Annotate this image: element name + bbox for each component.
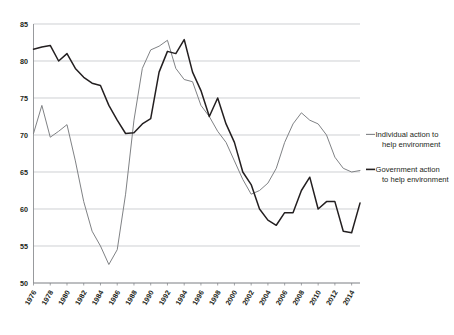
chart-canvas: 8580757065605550 19761978198019821984198…	[0, 0, 454, 335]
x-tick-label: 2008	[291, 289, 307, 307]
x-tick-label: 1994	[173, 289, 189, 307]
x-tick-label: 2006	[274, 289, 290, 307]
x-axis-tick-labels: 1976197819801982198419861988199019921994…	[23, 283, 357, 307]
x-tick-label: 1988	[123, 289, 139, 307]
y-tick-label: 70	[20, 131, 28, 140]
axes	[34, 24, 361, 283]
legend-label-line1[interactable]: Individual action to	[376, 130, 439, 139]
x-tick-label: 2014	[341, 289, 357, 307]
x-tick-label: 1990	[140, 289, 156, 307]
y-axis-tick-labels: 8580757065605550	[20, 20, 28, 288]
line-chart: 8580757065605550 19761978198019821984198…	[0, 0, 454, 335]
series-line-government-action	[34, 40, 361, 233]
gridlines	[34, 24, 361, 283]
chart-legend[interactable]: Individual action tohelp environmentGove…	[366, 130, 450, 184]
y-tick-label: 85	[20, 20, 28, 29]
y-tick-label: 65	[20, 168, 28, 177]
x-tick-label: 1980	[56, 289, 72, 307]
legend-label-line2[interactable]: to help environment	[382, 175, 450, 184]
x-tick-label: 1984	[90, 289, 106, 307]
x-tick-label: 1992	[157, 289, 173, 307]
x-tick-label: 2004	[257, 289, 273, 307]
y-tick-label: 50	[20, 279, 28, 288]
x-tick-label: 2000	[224, 289, 240, 307]
data-series	[34, 40, 361, 265]
x-tick-label: 1978	[39, 289, 55, 307]
legend-label-line2[interactable]: help environment	[382, 140, 441, 149]
y-tick-label: 60	[20, 205, 28, 214]
x-tick-label: 1996	[190, 289, 206, 307]
legend-label-line1[interactable]: Government action	[376, 165, 440, 174]
x-tick-label: 2010	[307, 289, 323, 307]
x-tick-label: 1982	[73, 289, 89, 307]
x-tick-label: 1998	[207, 289, 223, 307]
series-line-individual-action	[34, 40, 361, 264]
x-tick-label: 2002	[240, 289, 256, 307]
x-tick-label: 1986	[106, 289, 122, 307]
y-tick-label: 55	[20, 242, 28, 251]
y-tick-label: 75	[20, 94, 28, 103]
x-tick-label: 2012	[324, 289, 340, 307]
y-tick-label: 80	[20, 57, 28, 66]
x-tick-label: 1976	[23, 289, 39, 307]
